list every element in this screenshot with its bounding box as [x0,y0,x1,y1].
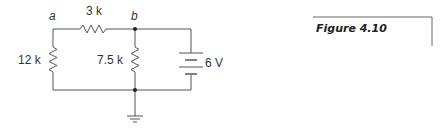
resistor-7-5k [131,47,139,72]
resistor-3k [80,25,106,33]
wire-left-bottom [53,72,191,90]
label-r-12k: 12 k [18,53,42,67]
figure-caption: Figure 4.10 [316,22,387,35]
junction-node-b [133,27,137,31]
label-node-b: b [131,9,138,23]
label-r-3k: 3 k [86,4,103,18]
label-node-a: a [49,9,56,23]
battery-6v [179,53,203,74]
junction-node-bottom [133,88,137,92]
label-source-6v: 6 V [205,56,223,70]
wire-top-right [106,29,191,53]
circuit-diagram: a 3 k b 12 k 7.5 k 6 V Figure 4.10 [0,0,446,137]
ground-symbol [127,116,143,122]
label-r-7-5k: 7.5 k [97,53,124,67]
resistor-12k [49,47,57,72]
